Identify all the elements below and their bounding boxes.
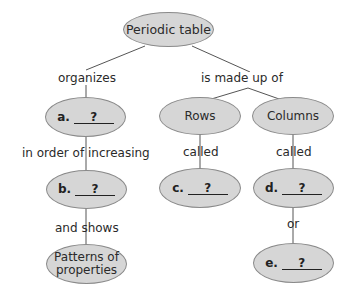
node-e-letter: e.	[265, 257, 278, 270]
link-label-organizes: organizes	[57, 72, 117, 85]
node-d-letter: d.	[265, 182, 278, 195]
node-a-answer-blank[interactable]: ?	[74, 111, 114, 124]
node-patterns-of-properties: Patterns of properties	[46, 244, 127, 284]
node-e-answer-blank[interactable]: ?	[282, 257, 322, 270]
node-b-blank[interactable]: b. ?	[46, 170, 127, 209]
node-columns: Columns	[252, 97, 334, 135]
node-periodic-table: Periodic table	[123, 12, 214, 47]
line-root-to-made-up-of	[192, 46, 250, 72]
node-rows-label: Rows	[184, 110, 215, 123]
link-label-is-made-up-of: is made up of	[200, 72, 284, 85]
link-label-and-shows: and shows	[54, 222, 120, 235]
node-e-blank[interactable]: e. ?	[253, 243, 334, 283]
link-label-rows-called: called	[182, 146, 220, 159]
node-c-answer-blank[interactable]: ?	[188, 182, 228, 195]
node-b-letter: b.	[58, 183, 71, 196]
node-a-blank[interactable]: a. ?	[45, 97, 126, 137]
concept-map: Periodic table organizes is made up of i…	[0, 0, 353, 300]
node-columns-label: Columns	[267, 110, 319, 123]
node-patterns-line2: properties	[56, 264, 117, 277]
link-label-or: or	[286, 218, 300, 231]
line-root-to-organizes	[86, 46, 145, 70]
node-b-answer-blank[interactable]: ?	[75, 183, 115, 196]
link-label-in-order-of-increasing: in order of increasing	[21, 147, 151, 160]
node-periodic-table-label: Periodic table	[126, 23, 211, 36]
link-label-columns-called: called	[275, 146, 313, 159]
node-rows: Rows	[159, 97, 241, 135]
node-c-blank[interactable]: c. ?	[159, 168, 241, 208]
node-a-letter: a.	[57, 111, 70, 124]
node-d-blank[interactable]: d. ?	[253, 168, 334, 208]
node-d-answer-blank[interactable]: ?	[282, 182, 322, 195]
node-c-letter: c.	[172, 182, 184, 195]
